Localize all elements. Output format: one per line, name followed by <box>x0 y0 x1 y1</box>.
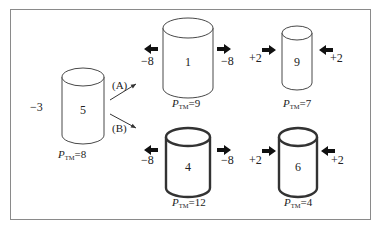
result-cylinder-b1: 4 <box>166 128 210 197</box>
ptm-label-a1: PTM=9 <box>171 97 201 110</box>
cylinder-value: 5 <box>80 103 86 117</box>
arrow-left-icon <box>144 44 158 54</box>
charge-right-label: +2 <box>330 51 343 65</box>
path-label-b: (B) <box>112 122 127 135</box>
source-ptm-label: PTM=8 <box>57 148 87 161</box>
charge-left-label: +2 <box>249 153 262 167</box>
cylinder-value: 6 <box>295 160 301 174</box>
ptm-label-b1: PTM=12 <box>171 196 206 209</box>
arrow-right-icon <box>262 146 276 156</box>
cylinder-value: 1 <box>185 55 191 69</box>
arrow-right-icon <box>262 45 276 55</box>
cylinder-top <box>166 128 210 146</box>
charge-left-label: +2 <box>249 51 262 65</box>
charge-left-label: −8 <box>141 153 154 167</box>
charge-right-label: −8 <box>221 54 234 68</box>
source-cylinder: 5 <box>62 68 104 144</box>
cylinder-value: 9 <box>294 55 300 69</box>
cylinder-top <box>163 18 213 38</box>
charge-left-label: −8 <box>141 54 154 68</box>
result-cylinder-a2: 9 <box>282 26 312 90</box>
charge-right-label: −8 <box>221 153 234 167</box>
ptm-label-a2: PTM=7 <box>282 97 312 110</box>
arrow-right-icon <box>217 44 231 54</box>
result-cylinder-a1: 1 <box>163 18 213 98</box>
cylinder-top <box>282 26 312 40</box>
cylinder-top <box>279 128 317 146</box>
path-label-a: (A) <box>112 79 128 92</box>
source-charge-label: −3 <box>30 100 43 114</box>
cylinder-top <box>62 68 104 86</box>
charge-right-label: +2 <box>331 153 344 167</box>
cell-division-diagram: 5−3PTM=8(A)(B)1−8−8PTM=99+2+2PTM=74−8−8P… <box>0 0 380 227</box>
cylinder-value: 4 <box>185 160 191 174</box>
result-cylinder-b2: 6 <box>279 128 317 197</box>
